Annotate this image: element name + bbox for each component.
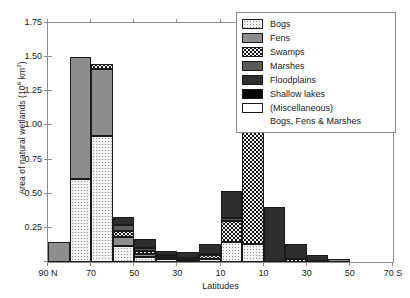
bar-segment-fens xyxy=(70,57,92,179)
x-tick-mark-bottom xyxy=(133,262,134,266)
bar-segment-fens xyxy=(113,237,135,245)
bar-0-10S xyxy=(242,115,264,262)
bar-segment-floodplains xyxy=(264,207,286,262)
x-tick-label: 70 xyxy=(67,268,115,278)
bar-20-30S xyxy=(285,244,307,262)
y-tick-label: 1.75 xyxy=(8,17,42,27)
legend-label: Fens xyxy=(270,33,290,43)
bar-segment-fens xyxy=(328,259,350,262)
bar-segment-bogs xyxy=(113,246,135,262)
legend-swatch-floodplains xyxy=(242,75,263,85)
bar-10-20S xyxy=(264,207,286,262)
y-tick-label: 1.25 xyxy=(8,85,42,95)
y-tick-label: 0.50 xyxy=(8,188,42,198)
bar-segment-marshes xyxy=(221,218,243,221)
legend-label: (Miscellaneous) xyxy=(270,103,333,113)
bar-segment-floodplains xyxy=(156,251,178,255)
bar-segment-swamps xyxy=(91,64,113,69)
bar-segment-floodplains xyxy=(134,239,156,249)
legend-swatch-marshes xyxy=(242,61,263,71)
bar-segment-swamps xyxy=(113,231,135,238)
bar-segment-bogs xyxy=(221,242,243,262)
wetlands-area-chart: Area of natural wetlands (106 km2) 0.250… xyxy=(0,0,410,298)
y-tick-label: 0.25 xyxy=(8,222,42,232)
bar-30-40S xyxy=(307,255,329,262)
bar-segment-marshes xyxy=(113,225,135,230)
legend-label: Floodplains xyxy=(270,75,316,85)
bar-segment-bogs xyxy=(91,136,113,262)
legend-item-marshes: Marshes xyxy=(242,59,390,73)
legend-label: Swamps xyxy=(270,47,305,57)
bar-segment-floodplains xyxy=(177,252,199,257)
bar-0-10N xyxy=(221,191,243,262)
legend-swatch-misc xyxy=(242,103,263,113)
bar-segment-swamps xyxy=(285,259,307,262)
legend-item-floodplains: Floodplains xyxy=(242,73,390,87)
bar-segment-bogs xyxy=(156,259,178,262)
legend-label: Marshes xyxy=(270,61,305,71)
chart-legend: BogsFensSwampsMarshesFloodplainsShallow … xyxy=(236,12,396,133)
x-tick-mark-bottom xyxy=(263,262,264,266)
bar-40-50N xyxy=(134,239,156,262)
x-tick-mark-bottom xyxy=(392,262,393,266)
legend-item-shallow: Shallow lakes xyxy=(242,87,390,101)
x-tick-label: 30 xyxy=(153,268,201,278)
x-tick-label: 90 N xyxy=(24,268,72,278)
bar-segment-floodplains xyxy=(113,217,135,225)
legend-item-bogs: Bogs xyxy=(242,17,390,31)
bar-segment-swamps xyxy=(199,255,221,259)
bar-segment-swamps xyxy=(221,221,243,241)
bar-70-80N xyxy=(70,57,92,262)
x-axis-label: Latitudes xyxy=(33,281,408,291)
x-tick-mark-bottom xyxy=(306,262,307,266)
legend-label: Bogs xyxy=(270,19,291,29)
bar-segment-swamps xyxy=(242,125,264,244)
legend-swatch-fens xyxy=(242,33,263,43)
bar-segment-floodplains xyxy=(285,244,307,259)
legend-continuation-label: Bogs, Fens & Marshes xyxy=(270,115,390,127)
bar-20-30N xyxy=(177,252,199,262)
bar-segment-floodplains xyxy=(307,255,329,260)
bar-30-40N xyxy=(156,251,178,262)
bar-segment-swamps xyxy=(134,251,156,254)
x-tick-label: 50 xyxy=(326,268,374,278)
bar-segment-marshes xyxy=(134,248,156,251)
legend-item-fens: Fens xyxy=(242,31,390,45)
legend-label: Shallow lakes xyxy=(270,89,325,99)
x-tick-label: 30 xyxy=(283,268,331,278)
legend-swatch-swamps xyxy=(242,47,263,57)
x-tick-label: 10 xyxy=(240,268,288,278)
bar-50-60N xyxy=(113,217,135,262)
x-tick-label: 50 xyxy=(110,268,158,278)
bar-80-90N xyxy=(48,242,70,262)
x-tick-label: 10 xyxy=(197,268,245,278)
bar-segment-bogs xyxy=(199,259,221,262)
y-tick-label: 0.75 xyxy=(8,154,42,164)
x-tick-mark-bottom xyxy=(220,262,221,266)
bar-segment-floodplains xyxy=(199,244,221,254)
x-tick-label: 70 S xyxy=(369,268,410,278)
legend-swatch-bogs xyxy=(242,19,263,29)
x-tick-mark-bottom xyxy=(349,262,350,266)
bar-60-70N xyxy=(91,64,113,262)
bar-10-20N xyxy=(199,244,221,262)
legend-item-misc: (Miscellaneous) xyxy=(242,101,390,115)
bar-segment-bogs xyxy=(134,257,156,262)
x-tick-mark-bottom xyxy=(90,262,91,266)
legend-item-swamps: Swamps xyxy=(242,45,390,59)
bar-segment-fens xyxy=(48,242,70,262)
bar-segment-bogs xyxy=(70,179,92,262)
bar-40-50S xyxy=(328,259,350,262)
bar-segment-bogs xyxy=(242,244,264,262)
bar-segment-floodplains xyxy=(221,191,243,218)
x-tick-mark-bottom xyxy=(176,262,177,266)
bar-segment-fens xyxy=(91,69,113,136)
y-tick-label: 1.00 xyxy=(8,119,42,129)
legend-swatch-shallow xyxy=(242,89,263,99)
bar-segment-fens xyxy=(134,254,156,257)
y-tick-label: 1.50 xyxy=(8,51,42,61)
x-tick-mark-bottom xyxy=(47,262,48,266)
